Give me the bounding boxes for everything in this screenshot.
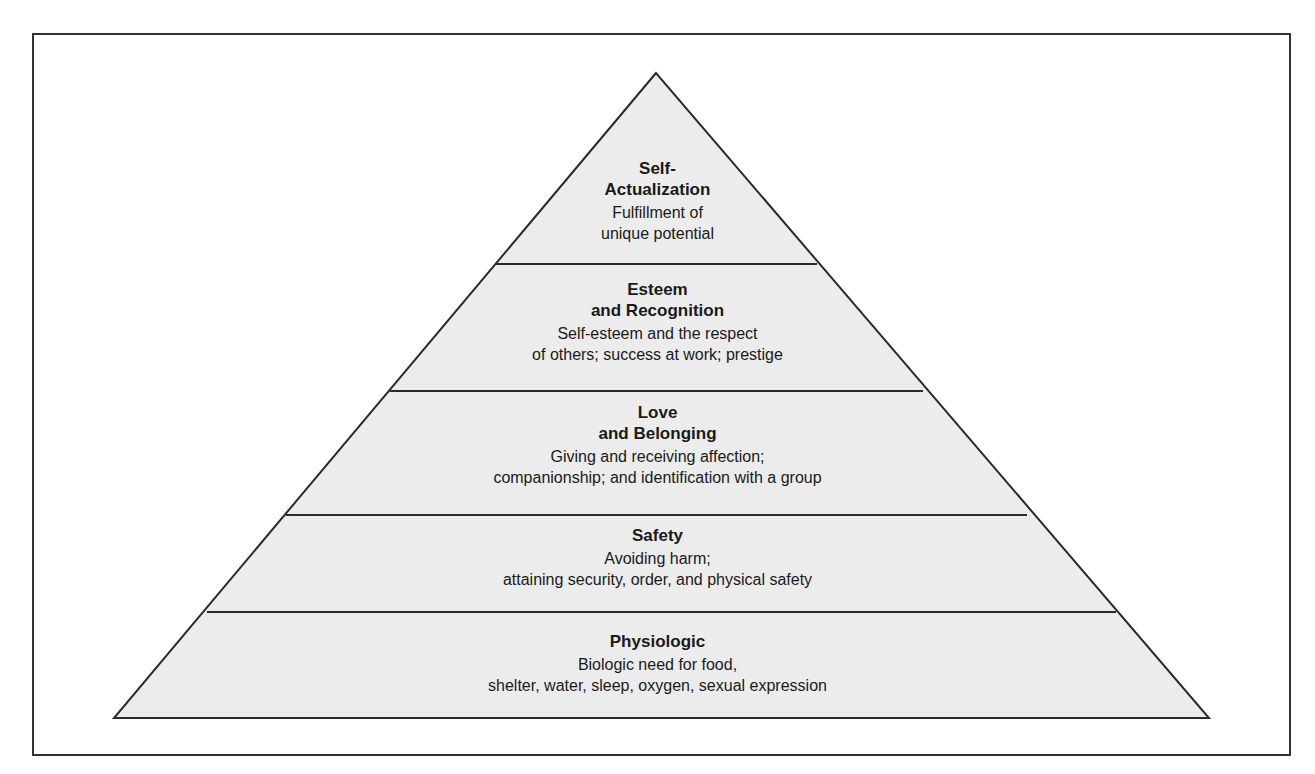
tier-title: and Recognition: [0, 300, 1315, 321]
tier-title: Esteem: [0, 279, 1315, 300]
tier-description: Giving and receiving affection;: [0, 446, 1315, 467]
tier-physiologic: Physiologic Biologic need for food, shel…: [0, 631, 1315, 696]
tier-title: Love: [0, 402, 1315, 423]
tier-title: Actualization: [0, 179, 1315, 200]
tier-description: unique potential: [0, 223, 1315, 244]
tier-description: attaining security, order, and physical …: [0, 569, 1315, 590]
tier-esteem: Esteem and Recognition Self-esteem and t…: [0, 279, 1315, 365]
tier-self-actualization: Self- Actualization Fulfillment of uniqu…: [0, 158, 1315, 244]
tier-description: Avoiding harm;: [0, 548, 1315, 569]
tier-safety: Safety Avoiding harm; attaining security…: [0, 525, 1315, 590]
tier-love-belonging: Love and Belonging Giving and receiving …: [0, 402, 1315, 488]
tier-description: Fulfillment of: [0, 202, 1315, 223]
tier-description: shelter, water, sleep, oxygen, sexual ex…: [0, 675, 1315, 696]
tier-description: companionship; and identification with a…: [0, 467, 1315, 488]
tier-description: Biologic need for food,: [0, 654, 1315, 675]
tier-title: Physiologic: [0, 631, 1315, 652]
tier-title: Safety: [0, 525, 1315, 546]
tier-title: and Belonging: [0, 423, 1315, 444]
tier-title: Self-: [0, 158, 1315, 179]
tier-description: of others; success at work; prestige: [0, 344, 1315, 365]
tier-description: Self-esteem and the respect: [0, 323, 1315, 344]
